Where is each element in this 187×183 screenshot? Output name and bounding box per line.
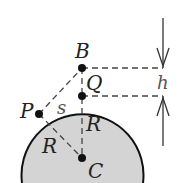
label-C: C xyxy=(88,159,103,183)
label-R-diagonal: R xyxy=(41,134,57,158)
label-P: P xyxy=(19,99,34,123)
label-Q: Q xyxy=(86,71,102,95)
point-Q xyxy=(78,92,86,100)
point-P xyxy=(35,110,43,118)
label-s: s xyxy=(57,97,66,118)
point-C xyxy=(78,154,86,162)
label-h: h xyxy=(157,72,169,93)
label-R-vertical: R xyxy=(85,112,101,136)
label-B: B xyxy=(74,39,90,63)
point-B xyxy=(78,64,86,72)
geometry-diagram: B Q P C s R R h xyxy=(0,0,187,183)
